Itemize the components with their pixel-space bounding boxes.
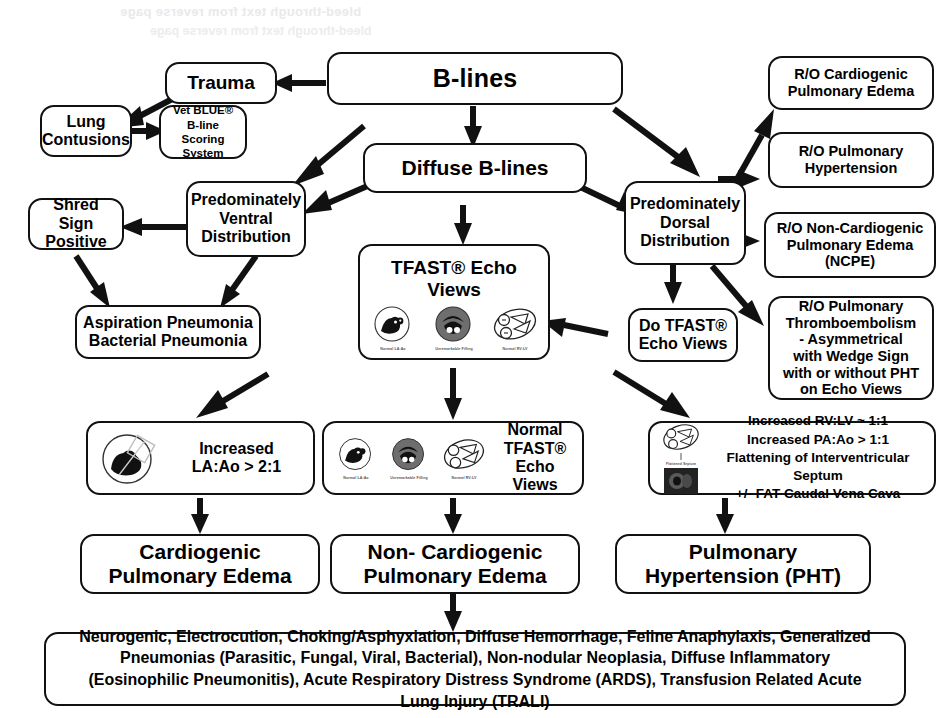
ultrasound-rv-lv-enlarged-icon bbox=[660, 422, 702, 452]
node-diffuse-b-lines[interactable]: Diffuse B-lines bbox=[363, 143, 587, 193]
arrow-tfast-to-laao bbox=[188, 370, 272, 422]
node-aspiration-bacterial-pneumonia[interactable]: Aspiration Pneumonia Bacterial Pneumonia bbox=[75, 305, 261, 359]
thumbnail-caption-filling-2: Unremarkable Filling bbox=[390, 476, 428, 480]
thumbnail-increased-la-ao bbox=[98, 431, 160, 485]
arrow-diffuse-to-ventral bbox=[296, 178, 374, 218]
thumbnail-caption-pht-septum: Flattened Septum bbox=[666, 463, 696, 467]
node-increased-la-ao-label: Increased LA:Ao > 2:1 bbox=[170, 440, 303, 477]
arrow-ventral-to-aspiration bbox=[210, 252, 262, 312]
node-ro-pulmonary-thromboembolism-label: R/O Pulmonary Thromboembolism - Asymmetr… bbox=[783, 298, 919, 398]
node-ro-cardiogenic-pulmonary-edema-label: R/O Cardiogenic Pulmonary Edema bbox=[788, 66, 915, 99]
ultrasound-filling-icon bbox=[432, 305, 476, 345]
arrow-laao-to-cardiogenic-pe bbox=[189, 498, 211, 534]
node-normal-tfast-echo-views-label: Normal TFAST® Echo Views bbox=[498, 421, 572, 495]
arrow-blines-to-trauma bbox=[272, 74, 328, 92]
tfast-thumbnail-row: Normal LA:Ao Unremarkable Filling bbox=[367, 305, 541, 351]
thumbnail-caption-rv-lv-2: Normal RV:LV bbox=[452, 476, 477, 480]
ultrasound-rv-lv-icon-2 bbox=[442, 436, 486, 474]
thumbnail-caption-la-ao-2: Normal LA:Ao bbox=[343, 476, 368, 480]
node-ro-pulmonary-thromboembolism[interactable]: R/O Pulmonary Thromboembolism - Asymmetr… bbox=[768, 296, 934, 400]
node-b-lines[interactable]: B-lines bbox=[327, 52, 623, 105]
diagram-canvas: bleed-through text from reverse page ble… bbox=[0, 0, 950, 718]
node-ro-non-cardiogenic-pulmonary-edema[interactable]: R/O Non-Cardiogenic Pulmonary Edema (NCP… bbox=[764, 212, 936, 278]
thumbnail-caption-la-ao: Normal LA:Ao bbox=[380, 347, 405, 351]
node-differentials-list[interactable]: Neurogenic, Electrocution, Choking/Asphy… bbox=[44, 632, 906, 706]
node-do-tfast-echo-views[interactable]: Do TFAST® Echo Views bbox=[628, 308, 738, 362]
node-predominately-dorsal-label: Predominately Dorsal Distribution bbox=[630, 195, 740, 250]
arrow-tfast-to-normal-tfast bbox=[442, 368, 464, 420]
thumbnail-caption-rv-lv: Normal RV:LV bbox=[503, 347, 528, 351]
arrow-blines-to-diffuse bbox=[462, 106, 484, 148]
arrow-blines-to-dorsal bbox=[610, 105, 706, 185]
node-pulmonary-hypertension[interactable]: Pulmonary Hypertension (PHT) bbox=[615, 534, 871, 594]
node-differentials-list-label: Neurogenic, Electrocution, Choking/Asphy… bbox=[68, 626, 882, 712]
node-vet-blue[interactable]: Vet BLUE® B-line Scoring System bbox=[159, 105, 247, 159]
arrow-to-ventral-upper bbox=[290, 122, 370, 192]
node-lung-contusions[interactable]: Lung Contusions bbox=[40, 105, 132, 157]
thumbnail-normal-rv-lv: Normal RV:LV bbox=[489, 305, 541, 351]
node-pht-findings[interactable]: Flattened Septum Increased RV:LV ~ 1:1 I… bbox=[648, 421, 936, 495]
thumbnail-unremarkable-filling-2: Unremarkable Filling bbox=[387, 436, 431, 480]
arrow-tfast-to-pht-findings bbox=[610, 368, 700, 422]
thumbnail-normal-la-ao: Normal LA:Ao bbox=[367, 305, 419, 351]
node-b-lines-label: B-lines bbox=[433, 64, 518, 93]
node-diffuse-b-lines-label: Diffuse B-lines bbox=[401, 156, 548, 180]
arrow-do-tfast-to-tfast-views bbox=[540, 318, 610, 340]
arrow-normal-tfast-to-noncardiogenic-pe bbox=[442, 498, 464, 534]
node-ro-pulmonary-hypertension-label: R/O Pulmonary Hypertension bbox=[799, 143, 904, 176]
pht-thumbnail-stack: Flattened Septum bbox=[660, 422, 702, 494]
node-shred-sign-positive-label: Shred Sign Positive bbox=[36, 196, 116, 251]
node-non-cardiogenic-pulmonary-edema-label: Non- Cardiogenic Pulmonary Edema bbox=[363, 540, 546, 588]
arrow-shred-to-aspiration bbox=[72, 252, 120, 312]
ultrasound-filling-icon-2 bbox=[389, 436, 429, 474]
node-pulmonary-hypertension-label: Pulmonary Hypertension (PHT) bbox=[645, 540, 841, 588]
arrow-dorsal-to-do-tfast bbox=[662, 262, 684, 304]
node-normal-tfast-echo-views[interactable]: Normal LA:Ao Unremarkable Filling bbox=[322, 421, 584, 495]
thumbnail-caption-filling: Unremarkable Filling bbox=[435, 347, 473, 351]
node-aspiration-bacterial-pneumonia-label: Aspiration Pneumonia Bacterial Pneumonia bbox=[83, 314, 253, 351]
arrow-ventral-to-shred bbox=[118, 218, 190, 236]
node-pht-findings-label: Increased RV:LV ~ 1:1 Increased PA:Ao > … bbox=[712, 412, 924, 503]
node-non-cardiogenic-pulmonary-edema[interactable]: Non- Cardiogenic Pulmonary Edema bbox=[330, 534, 580, 594]
node-ro-cardiogenic-pulmonary-edema[interactable]: R/O Cardiogenic Pulmonary Edema bbox=[768, 56, 934, 110]
thumbnail-normal-rv-lv-2: Normal RV:LV bbox=[440, 436, 488, 480]
thumbnail-connector-line bbox=[677, 453, 685, 460]
ultrasound-rv-lv-icon bbox=[492, 305, 538, 345]
node-predominately-ventral[interactable]: Predominately Ventral Distribution bbox=[186, 181, 306, 257]
normal-tfast-thumbnail-row: Normal LA:Ao Unremarkable Filling bbox=[334, 436, 488, 480]
node-cardiogenic-pulmonary-edema-label: Cardiogenic Pulmonary Edema bbox=[108, 540, 291, 588]
node-predominately-dorsal[interactable]: Predominately Dorsal Distribution bbox=[624, 181, 746, 265]
bleedthrough-line-1: bleed-through text from reverse page bbox=[120, 4, 361, 19]
node-tfast-echo-views[interactable]: TFAST® Echo Views Normal LA:Ao bbox=[358, 244, 550, 360]
la-ao-thumbnail bbox=[98, 431, 160, 485]
bleedthrough-line-2: bleed-through text from reverse page bbox=[150, 24, 372, 38]
arrow-diffuse-to-tfast bbox=[452, 205, 474, 245]
ultrasound-la-ao-icon-2 bbox=[336, 436, 376, 474]
node-trauma-label: Trauma bbox=[187, 72, 255, 94]
ultrasound-la-ao-icon bbox=[371, 305, 415, 345]
node-increased-la-ao[interactable]: Increased LA:Ao > 2:1 bbox=[86, 421, 315, 495]
node-tfast-echo-views-label: TFAST® Echo Views bbox=[391, 257, 517, 301]
thumbnail-unremarkable-filling: Unremarkable Filling bbox=[428, 305, 480, 351]
ultrasound-flattened-septum-icon bbox=[664, 468, 698, 494]
ultrasound-increased-la-ao-icon bbox=[99, 431, 159, 485]
node-trauma[interactable]: Trauma bbox=[165, 62, 277, 104]
node-ro-non-cardiogenic-pulmonary-edema-label: R/O Non-Cardiogenic Pulmonary Edema (NCP… bbox=[777, 220, 924, 270]
thumbnail-normal-la-ao-2: Normal LA:Ao bbox=[334, 436, 378, 480]
node-predominately-ventral-label: Predominately Ventral Distribution bbox=[191, 191, 301, 246]
node-do-tfast-echo-views-label: Do TFAST® Echo Views bbox=[639, 317, 728, 354]
node-cardiogenic-pulmonary-edema[interactable]: Cardiogenic Pulmonary Edema bbox=[80, 534, 320, 594]
node-ro-pulmonary-hypertension[interactable]: R/O Pulmonary Hypertension bbox=[768, 132, 934, 188]
node-vet-blue-label: Vet BLUE® B-line Scoring System bbox=[167, 103, 239, 161]
node-lung-contusions-label: Lung Contusions bbox=[42, 113, 130, 150]
node-shred-sign-positive[interactable]: Shred Sign Positive bbox=[28, 198, 124, 250]
